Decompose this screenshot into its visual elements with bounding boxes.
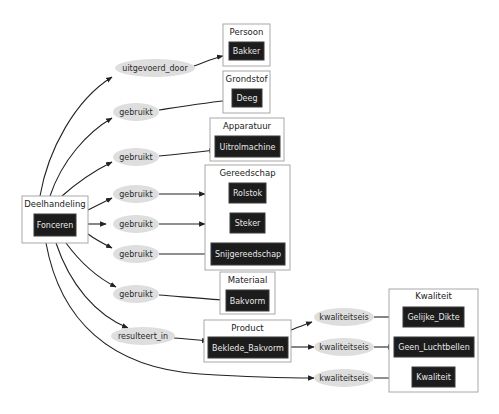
cluster-persoon: Persoon Bakker: [223, 24, 270, 66]
edge-line: [40, 77, 112, 196]
node-gelijke-dikte[interactable]: Gelijke_Dikte: [403, 307, 464, 327]
node-label: Fonceren: [37, 221, 74, 230]
node-beklede-bakvorm[interactable]: Beklede_Bakvorm: [208, 337, 288, 358]
node-kwaliteit[interactable]: Kwaliteit: [412, 367, 455, 387]
relation-gebruikt-steker[interactable]: gebruikt: [113, 215, 159, 233]
relation-gebruikt-bakvorm[interactable]: gebruikt: [113, 285, 159, 303]
cluster-title: Deelhandeling: [24, 199, 85, 209]
relation-label: gebruikt: [119, 250, 152, 259]
relation-label: kwaliteitseis: [319, 343, 368, 352]
relation-label: gebruikt: [119, 153, 152, 162]
relation-label: uitgevoerd_door: [122, 64, 188, 73]
edge-line: [159, 100, 232, 110]
node-snijgereedschap[interactable]: Snijgereedschap: [211, 243, 285, 265]
cluster-grondstof: Grondstof Deeg: [223, 71, 270, 113]
node-label: Gelijke_Dikte: [407, 313, 459, 322]
cluster-title: Gereedschap: [219, 168, 275, 178]
relation-gebruikt-uitrolmachine[interactable]: gebruikt: [113, 148, 159, 166]
node-label: Beklede_Bakvorm: [212, 344, 284, 353]
edge-line: [50, 118, 112, 196]
concept-diagram: Deelhandeling Fonceren Persoon Bakker Gr…: [0, 0, 499, 414]
cluster-title: Apparatuur: [223, 121, 272, 131]
cluster-deelhandeling: Deelhandeling Fonceren: [22, 196, 88, 243]
node-label: Bakker: [233, 47, 261, 56]
relation-label: gebruikt: [119, 190, 152, 199]
cluster-apparatuur: Apparatuur Uitrolmachine: [210, 118, 284, 161]
edge-line: [291, 322, 312, 330]
node-steker[interactable]: Steker: [230, 213, 265, 233]
relation-kwaliteitseis-gelijke-dikte[interactable]: kwaliteitseis: [314, 308, 374, 326]
relation-gebruikt-deeg[interactable]: gebruikt: [113, 103, 159, 121]
node-label: Snijgereedschap: [215, 250, 281, 259]
node-uitrolmachine[interactable]: Uitrolmachine: [215, 136, 280, 157]
node-label: Steker: [235, 219, 261, 228]
edge-line: [194, 56, 223, 66]
node-rolstok[interactable]: Rolstok: [229, 183, 266, 203]
edge-line: [159, 150, 215, 156]
cluster-title: Materiaal: [228, 275, 268, 285]
cluster-title: Grondstof: [226, 74, 269, 84]
relation-kwaliteitseis-geen-luchtbellen[interactable]: kwaliteitseis: [314, 338, 374, 356]
relation-gebruikt-snijgereedschap[interactable]: gebruikt: [113, 245, 159, 263]
cluster-kwaliteit: Kwaliteit Gelijke_Dikte Geen_Luchtbellen…: [389, 289, 478, 392]
cluster-title: Product: [231, 323, 264, 333]
relation-label: gebruikt: [119, 108, 152, 117]
cluster-title: Persoon: [230, 27, 264, 37]
cluster-product: Product Beklede_Bakvorm: [204, 320, 291, 362]
cluster-gereedschap: Gereedschap Rolstok Steker Snijgereedsch…: [205, 165, 290, 270]
cluster-materiaal: Materiaal Bakvorm: [220, 272, 275, 314]
node-geen-luchtbellen[interactable]: Geen_Luchtbellen: [394, 337, 474, 357]
edge-line: [62, 162, 112, 196]
node-label: Deeg: [236, 94, 257, 103]
relation-label: resulteert_in: [118, 332, 168, 341]
relation-label: kwaliteitseis: [319, 313, 368, 322]
node-bakker[interactable]: Bakker: [229, 42, 264, 60]
node-bakvorm[interactable]: Bakvorm: [226, 290, 269, 311]
relation-label: gebruikt: [119, 290, 152, 299]
relation-label: gebruikt: [119, 220, 152, 229]
relation-gebruikt-rolstok[interactable]: gebruikt: [113, 185, 159, 203]
node-deeg[interactable]: Deeg: [232, 89, 262, 107]
relation-label: kwaliteitseis: [319, 374, 368, 383]
node-label: Geen_Luchtbellen: [398, 343, 470, 352]
node-label: Uitrolmachine: [220, 143, 276, 152]
edge-line: [88, 234, 112, 248]
node-fonceren[interactable]: Fonceren: [34, 214, 76, 236]
node-label: Kwaliteit: [416, 373, 451, 382]
relation-resulteert-in[interactable]: resulteert_in: [111, 327, 175, 345]
node-label: Rolstok: [233, 189, 263, 198]
relation-uitgevoerd-door[interactable]: uitgevoerd_door: [115, 59, 195, 77]
edge-line: [174, 338, 208, 341]
edge-line: [159, 295, 226, 300]
relation-kwaliteitseis-kwaliteit[interactable]: kwaliteitseis: [314, 369, 374, 387]
node-label: Bakvorm: [230, 297, 266, 306]
cluster-title: Kwaliteit: [415, 291, 452, 301]
edge-line: [88, 198, 112, 210]
